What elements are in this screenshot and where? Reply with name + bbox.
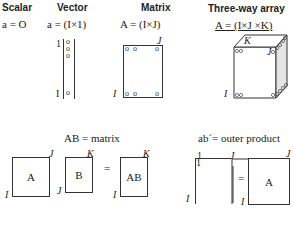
outer-title: ab´= outer product (198, 132, 280, 144)
matrix-a-rows: I (5, 189, 8, 200)
matrix-b-cols: K (87, 148, 94, 159)
outer-result-rows: I (241, 196, 244, 207)
outer-col-label: J (230, 150, 234, 161)
matrix-a-label: A (27, 171, 35, 183)
matrix-b-rows: J (57, 185, 61, 196)
matrix-ab-cols: K (143, 148, 150, 159)
cube-row-label: I (224, 88, 227, 99)
matrix-ab-rows: I (113, 189, 116, 200)
cube-col-label: J (267, 46, 271, 57)
outer-result-label: A (265, 176, 273, 188)
outer-row-vector (195, 158, 231, 159)
matrix-a: A (12, 157, 50, 197)
outer-result-cols: J (286, 148, 290, 159)
matrix-a-cols: J (49, 148, 53, 159)
matrix-b-label: B (75, 169, 82, 181)
product-equals: = (104, 162, 110, 174)
outer-row-label: I (186, 193, 189, 204)
outer-equals: = (238, 172, 244, 184)
matrix-b: B (65, 157, 93, 193)
matrix-ab: AB (120, 157, 148, 197)
matrix-ab-label: AB (126, 171, 141, 183)
product-title: AB = matrix (64, 132, 120, 144)
outer-result-matrix: A (248, 158, 290, 205)
cube-depth-label: K (244, 35, 251, 46)
outer-column-vector (195, 159, 196, 204)
